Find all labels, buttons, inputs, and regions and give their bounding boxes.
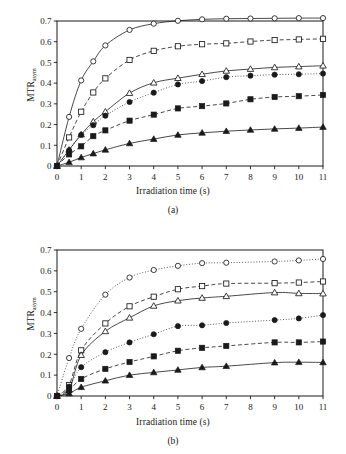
data-point-square-filled — [199, 345, 204, 350]
series-line-dashed — [57, 39, 323, 166]
series-line-dotted — [57, 259, 323, 396]
data-point-square-open — [296, 280, 301, 285]
y-tick-label: 0.6 — [40, 37, 52, 47]
data-point-square-open — [199, 42, 204, 47]
data-point-circle-open — [66, 355, 71, 360]
series-line-dashed — [57, 95, 323, 166]
plot-area-a: 0123456789101100.10.20.30.40.50.60.7 — [0, 0, 346, 180]
data-point-circle-open — [272, 16, 277, 21]
chart-panel-b: MTRasym 0123456789101100.10.20.30.40.50.… — [0, 227, 346, 454]
data-point-circle-filled — [296, 72, 301, 77]
data-point-triangle-open — [320, 290, 327, 296]
y-tick-label: 0.1 — [40, 370, 51, 380]
data-point-circle-open — [199, 17, 204, 22]
data-point-square-filled — [79, 376, 84, 381]
data-point-circle-filled — [91, 123, 96, 128]
data-point-circle-filled — [199, 78, 204, 83]
data-point-triangle-open — [102, 328, 109, 334]
x-tick-label: 8 — [248, 172, 253, 181]
data-point-square-open — [224, 281, 229, 286]
chart-panel-a: MTRasym 0123456789101100.10.20.30.40.50.… — [0, 0, 346, 227]
data-point-square-open — [127, 304, 132, 309]
data-point-circle-filled — [175, 82, 180, 87]
data-point-circle-open — [151, 267, 156, 272]
y-tick-label: 0.7 — [40, 245, 52, 255]
data-point-circle-open — [296, 16, 301, 21]
data-point-circle-filled — [103, 350, 108, 355]
plot-frame — [57, 21, 323, 166]
data-point-circle-filled — [199, 323, 204, 328]
data-point-square-filled — [103, 128, 108, 133]
data-point-circle-open — [224, 16, 229, 21]
y-tick-label: 0.1 — [40, 141, 51, 151]
x-axis-title-b: Irradiation time (s) — [0, 417, 346, 427]
x-tick-label: 9 — [272, 172, 277, 181]
plot-area-b: 0123456789101100.10.20.30.40.50.60.7 — [0, 230, 346, 412]
x-tick-label: 5 — [176, 402, 181, 412]
data-point-circle-filled — [127, 340, 132, 345]
data-point-square-filled — [151, 112, 156, 117]
data-point-square-filled — [175, 348, 180, 353]
data-point-square-open — [127, 57, 132, 62]
data-point-square-filled — [272, 94, 277, 99]
data-point-square-filled — [199, 104, 204, 109]
series-open-square — [54, 279, 325, 399]
data-point-square-filled — [248, 97, 253, 102]
data-point-circle-open — [199, 261, 204, 266]
series-line-solid — [57, 362, 323, 396]
plot-frame — [57, 250, 323, 396]
data-point-square-filled — [79, 144, 84, 149]
data-point-square-open — [175, 44, 180, 49]
y-tick-label: 0.3 — [40, 329, 52, 339]
series-filled-square — [54, 92, 325, 168]
data-point-square-open — [248, 39, 253, 44]
y-tick-label: 0.3 — [40, 99, 52, 109]
data-point-square-filled — [103, 366, 108, 371]
data-point-circle-filled — [127, 99, 132, 104]
data-point-circle-filled — [248, 73, 253, 78]
data-point-square-open — [103, 321, 108, 326]
data-point-circle-open — [103, 292, 108, 297]
x-tick-label: 1 — [79, 172, 84, 181]
x-tick-label: 1 — [79, 402, 84, 412]
data-point-square-filled — [296, 340, 301, 345]
data-point-circle-filled — [151, 332, 156, 337]
data-point-square-open — [91, 90, 96, 95]
data-point-square-filled — [224, 101, 229, 106]
y-tick-label: 0.2 — [40, 120, 51, 130]
data-point-triangle-open — [126, 90, 133, 96]
x-tick-label: 10 — [294, 172, 304, 181]
data-point-circle-open — [175, 18, 180, 23]
data-point-circle-open — [224, 260, 229, 265]
y-tick-label: 0 — [47, 391, 52, 401]
data-point-circle-open — [320, 256, 325, 261]
series-filled-triangle — [54, 359, 327, 398]
series-line-dotted — [57, 315, 323, 396]
data-point-circle-filled — [296, 316, 301, 321]
data-point-square-filled — [320, 339, 325, 344]
data-point-circle-open — [79, 326, 84, 331]
x-tick-label: 10 — [294, 402, 304, 412]
x-tick-label: 5 — [176, 172, 181, 181]
data-point-square-open — [66, 135, 71, 140]
data-point-circle-open — [79, 78, 84, 83]
data-point-circle-filled — [320, 71, 325, 76]
x-tick-label: 0 — [55, 172, 60, 181]
series-line-dashed — [57, 281, 323, 396]
data-point-square-open — [320, 36, 325, 41]
data-point-circle-filled — [79, 132, 84, 137]
data-point-square-filled — [224, 343, 229, 348]
x-tick-label: 4 — [151, 172, 156, 181]
data-point-circle-filled — [272, 317, 277, 322]
series-open-square — [54, 36, 325, 168]
x-tick-label: 7 — [224, 172, 229, 181]
data-point-square-filled — [296, 94, 301, 99]
y-tick-label: 0.6 — [40, 266, 52, 276]
data-point-square-open — [272, 281, 277, 286]
x-tick-label: 6 — [200, 172, 205, 181]
x-tick-label: 4 — [151, 402, 156, 412]
data-point-circle-open — [272, 259, 277, 264]
data-point-square-open — [79, 109, 84, 114]
data-point-circle-open — [127, 27, 132, 32]
x-tick-label: 8 — [248, 402, 253, 412]
